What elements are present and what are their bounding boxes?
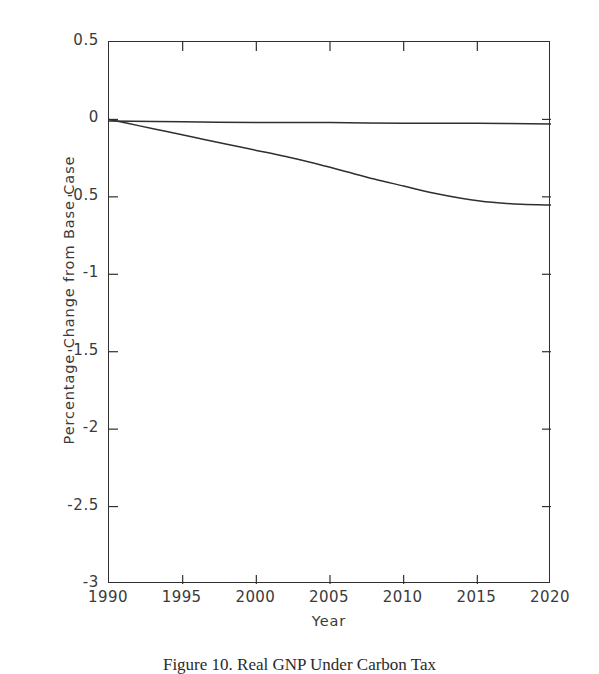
y-axis-title: Percentage Change from Base Case bbox=[46, 0, 92, 600]
x-tick-label: 2005 bbox=[309, 588, 349, 606]
x-tick-label: 1990 bbox=[88, 588, 128, 606]
x-tick-label: 2020 bbox=[530, 588, 570, 606]
x-axis-title: Year bbox=[108, 613, 550, 629]
plot-area bbox=[108, 41, 550, 583]
x-tick-label: 2015 bbox=[456, 588, 496, 606]
figure-container: Percentage Change from Base Case 0.50-0.… bbox=[0, 0, 599, 674]
data-series-group bbox=[109, 119, 551, 205]
x-tick-label: 2010 bbox=[383, 588, 423, 606]
plot-svg bbox=[109, 42, 551, 584]
data-line-0 bbox=[109, 121, 551, 124]
figure-caption: Figure 10. Real GNP Under Carbon Tax bbox=[0, 655, 599, 674]
data-line-1 bbox=[109, 119, 551, 205]
x-tick-label: 1995 bbox=[162, 588, 202, 606]
x-tick-label: 2000 bbox=[235, 588, 275, 606]
